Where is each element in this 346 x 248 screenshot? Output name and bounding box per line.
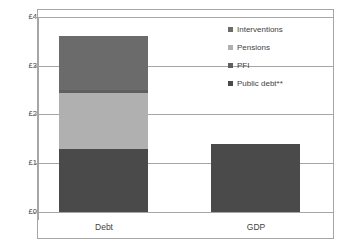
stacked-bar-chart: £4 £3 £2 £1 £0 Debt GDP (0, 0, 346, 248)
legend-swatch-public-debt (228, 81, 233, 86)
legend-label-public-debt: Public debt** (237, 79, 283, 88)
bar-segment-debt-pensions[interactable] (59, 93, 148, 149)
y-axis-line (38, 17, 39, 220)
legend-item-interventions[interactable]: Interventions (228, 20, 334, 38)
y-axis-tick-3 (34, 66, 38, 67)
legend-item-pfi[interactable]: PFI (228, 56, 334, 74)
chart-legend: Interventions Pensions PFI Public debt** (228, 20, 334, 92)
x-axis-label-debt: Debt (39, 222, 169, 232)
legend-swatch-interventions (228, 27, 233, 32)
legend-item-public-debt[interactable]: Public debt** (228, 74, 334, 92)
legend-label-pensions: Pensions (237, 43, 270, 52)
y-axis-tick-0 (34, 212, 38, 213)
y-axis-tick-4 (34, 17, 38, 18)
bar-gdp[interactable] (211, 144, 300, 212)
bar-segment-debt-public-debt[interactable] (59, 149, 148, 212)
legend-swatch-pensions (228, 45, 233, 50)
legend-swatch-pfi (228, 63, 233, 68)
bar-segment-gdp-public-debt[interactable] (211, 144, 300, 212)
legend-label-pfi: PFI (237, 61, 249, 70)
legend-label-interventions: Interventions (237, 25, 283, 34)
gridline-4 (38, 17, 333, 18)
bar-segment-debt-interventions[interactable] (59, 36, 148, 90)
x-axis-label-gdp: GDP (191, 222, 321, 232)
legend-item-pensions[interactable]: Pensions (228, 38, 334, 56)
y-axis-tick-1 (34, 163, 38, 164)
gridline-0 (38, 212, 333, 213)
bar-debt[interactable] (59, 36, 148, 212)
bar-segment-debt-pfi[interactable] (59, 90, 148, 93)
y-axis-tick-2 (34, 114, 38, 115)
